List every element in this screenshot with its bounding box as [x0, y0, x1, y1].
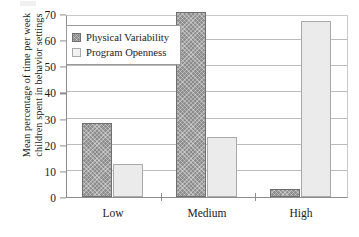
bar-low-program-openness	[113, 164, 143, 197]
y-tick-label: 20	[45, 140, 57, 152]
y-tick-label: 70	[45, 9, 57, 21]
y-tick-label: 40	[45, 87, 57, 99]
light-swatch-icon	[72, 48, 81, 57]
x-axis-label-high: High	[290, 206, 313, 220]
y-tick-label: 0	[50, 192, 56, 204]
bar-high-program-openness	[301, 21, 331, 197]
y-axis-ticks: 010203040506070	[0, 15, 66, 198]
y-tick-label: 60	[45, 35, 57, 47]
x-axis-label-medium: Medium	[188, 206, 227, 220]
bar-high-physical-variability	[270, 189, 300, 197]
x-axis-label-low: Low	[102, 206, 123, 220]
x-tick-mark	[161, 193, 162, 201]
legend-label: Physical Variability	[86, 32, 169, 44]
legend-item-physical-variability: Physical Variability	[72, 30, 174, 45]
y-tick-label: 10	[45, 166, 57, 178]
y-tick-label: 30	[45, 114, 57, 126]
y-tick-label: 50	[45, 61, 57, 73]
bar-chart-figure: Mean percentage of time per week childre…	[0, 0, 359, 237]
x-tick-mark	[255, 193, 256, 201]
dark-hatched-swatch-icon	[72, 33, 81, 42]
bar-low-physical-variability	[82, 123, 112, 197]
chart-legend: Physical Variability Program Openness	[66, 25, 181, 65]
bar-medium-program-openness	[207, 137, 237, 197]
x-axis-labels: LowMediumHigh	[66, 206, 348, 230]
legend-item-program-openness: Program Openness	[72, 45, 174, 60]
legend-label: Program Openness	[86, 47, 166, 59]
